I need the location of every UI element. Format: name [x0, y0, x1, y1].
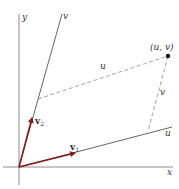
x-axis-label: x — [167, 167, 172, 177]
v-axis-label: v — [63, 11, 68, 21]
vector-v1-label: v1 — [69, 142, 79, 153]
y-axis-label: y — [21, 12, 28, 22]
u-axis-label: u — [165, 128, 171, 138]
vector-v2-arrow — [19, 118, 32, 167]
coordinate-diagram: y x v u (u, v) u v v1 v2 — [0, 0, 179, 189]
u-segment-label: u — [100, 61, 106, 71]
vector-v1-arrow — [19, 153, 75, 167]
v-segment-label: v — [160, 87, 165, 97]
point-uv — [166, 54, 170, 58]
vector-v2-label: v2 — [34, 116, 44, 127]
point-uv-label: (u, v) — [150, 42, 174, 52]
